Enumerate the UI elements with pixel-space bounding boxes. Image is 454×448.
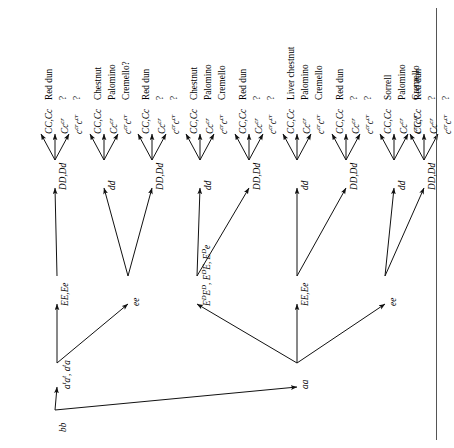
- leaf-phenotype: Palomino: [108, 64, 117, 100]
- leaf-genotype: ccrccr: [442, 115, 453, 134]
- leaf-genotype: CC,Cc: [287, 109, 296, 134]
- edge-ext-to-dun: [385, 188, 424, 276]
- node-extension-e1: ee: [132, 298, 141, 306]
- edge-dun-to-cream: [152, 134, 166, 160]
- edge-dun-to-cream: [380, 134, 394, 160]
- leaf-genotype: ccrccr: [267, 115, 278, 134]
- leaf-genotype: Cccr: [108, 118, 119, 134]
- edge-dun-to-cream: [235, 134, 249, 160]
- edge-dun-to-cream: [104, 134, 118, 160]
- leaf-phenotype: ?: [428, 96, 437, 100]
- edge-agouti-to-ext: [297, 304, 385, 363]
- leaf-phenotype: ?: [442, 96, 451, 100]
- leaf-phenotype: ?: [170, 96, 179, 100]
- leaf-phenotype: Sorrell: [384, 75, 393, 100]
- node-dun-d2: dd: [204, 181, 213, 190]
- edge-dun-to-cream: [55, 134, 69, 160]
- edge-dun-to-cream: [332, 134, 346, 160]
- edge-dun-to-cream: [249, 134, 263, 160]
- edge-dun-to-cream: [283, 134, 297, 160]
- edge-root-to-agouti: [55, 387, 297, 410]
- node-agouti-aa: aa: [301, 380, 310, 389]
- leaf-genotype: CC,Cc: [45, 109, 54, 134]
- leaf-phenotype: Cremello?: [122, 61, 131, 100]
- leaf-phenotype: ?: [267, 96, 276, 100]
- leaf-genotype: CC,Cc: [336, 109, 345, 134]
- edge-ext-to-dun: [128, 188, 152, 276]
- leaf-phenotype: Cremello: [315, 65, 324, 100]
- edge-dun-to-cream: [200, 134, 214, 160]
- edge-ext-to-dun: [104, 188, 128, 276]
- leaf-phenotype: ?: [59, 96, 68, 100]
- leaf-genotype: ccrccr: [364, 115, 375, 134]
- edge-dun-to-cream: [346, 134, 360, 160]
- right-border-rule: [436, 8, 437, 440]
- edge-dun-to-cream: [90, 134, 104, 160]
- leaf-phenotype: Red dun: [239, 69, 248, 100]
- leaf-genotype: ccrccr: [315, 115, 326, 134]
- edge-ext-to-dun: [55, 188, 57, 276]
- leaf-genotype: CC,Cc: [142, 109, 151, 134]
- diagram-canvas: Red dun??ChestnutPalominoCremello?Red du…: [0, 0, 454, 448]
- node-agouti-at: atat, ata: [61, 360, 72, 389]
- edge-agouti-to-ext: [197, 304, 297, 363]
- leaf-phenotype: Palomino: [398, 64, 407, 100]
- leaf-phenotype: ?: [253, 96, 262, 100]
- leaf-genotype: CC,Cc: [239, 109, 248, 134]
- node-dun-D4: DD,Dd: [350, 163, 359, 190]
- leaf-genotype: Cccr: [301, 118, 312, 134]
- node-dun-D3: DD,Dd: [253, 163, 262, 190]
- leaf-genotype: ccrccr: [170, 115, 181, 134]
- edge-ext-to-dun: [197, 188, 200, 276]
- edge-ext-to-dun: [385, 188, 394, 276]
- leaf-genotype: ccrccr: [73, 115, 84, 134]
- leaf-phenotype: Palomino: [204, 64, 213, 100]
- leaf-phenotype: Red dun: [142, 69, 151, 100]
- edge-dun-to-cream: [410, 134, 424, 160]
- node-extension-ED: EDED, EDE, EDe: [201, 245, 212, 306]
- leaf-genotype: Cccr: [350, 118, 361, 134]
- leaf-genotype: Cccr: [428, 118, 439, 134]
- edge-dun-to-cream: [394, 134, 408, 160]
- leaf-genotype: CC,Cc: [94, 109, 103, 134]
- leaf-phenotype: Palomino: [301, 64, 310, 100]
- node-root-bb: bb: [59, 423, 68, 432]
- edge-dun-to-cream: [186, 134, 200, 160]
- edge-dun-to-cream: [138, 134, 152, 160]
- leaf-phenotype: ?: [73, 96, 82, 100]
- node-dun-D5: DD,Dd: [428, 163, 437, 190]
- leaf-phenotype: Red dun: [336, 69, 345, 100]
- edge-dun-to-cream: [41, 134, 55, 160]
- node-extension-E2: EE,Ee: [301, 283, 310, 307]
- edge-ext-to-dun: [297, 188, 346, 276]
- edge-dun-to-cream: [297, 134, 311, 160]
- leaf-genotype: Cccr: [398, 118, 409, 134]
- node-dun-d4: dd: [398, 181, 407, 190]
- edge-root-to-agouti: [55, 387, 57, 410]
- leaf-phenotype: Red dun: [414, 69, 423, 100]
- leaf-phenotype: Cremello: [218, 65, 227, 100]
- leaf-genotype: Cccr: [204, 118, 215, 134]
- leaf-genotype: ccrccr: [218, 115, 229, 134]
- node-dun-d3: dd: [301, 181, 310, 190]
- leaf-genotype: Cccr: [253, 118, 264, 134]
- leaf-genotype: ccrccr: [122, 115, 133, 134]
- leaf-phenotype: Chestnut: [94, 67, 103, 100]
- leaf-phenotype: Liver chestnut: [287, 47, 296, 100]
- leaf-genotype: CC,Cc: [384, 109, 393, 134]
- node-dun-d1: dd: [108, 181, 117, 190]
- leaf-phenotype: ?: [364, 96, 373, 100]
- node-extension-e2: ee: [389, 298, 398, 306]
- leaf-phenotype: Chestnut: [190, 67, 199, 100]
- leaf-phenotype: ?: [350, 96, 359, 100]
- leaf-genotype: Cccr: [59, 118, 70, 134]
- leaf-phenotype: Red dun: [45, 69, 54, 100]
- leaf-phenotype: ?: [156, 96, 165, 100]
- node-extension-E1: EE,Ee: [61, 283, 70, 307]
- node-dun-D2: DD,Dd: [156, 163, 165, 190]
- leaf-genotype: Cccr: [156, 118, 167, 134]
- leaf-genotype: CC,Cc: [190, 109, 199, 134]
- edge-agouti-to-ext: [57, 304, 128, 363]
- node-dun-D1: DD,Dd: [59, 163, 68, 190]
- leaf-genotype: CC,Cc: [414, 109, 423, 134]
